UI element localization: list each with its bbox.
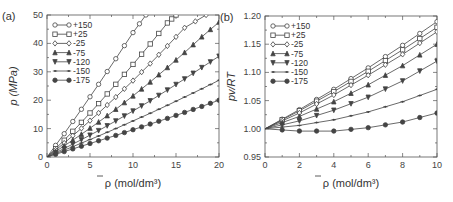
series-marker bbox=[280, 128, 284, 132]
series-marker bbox=[96, 120, 100, 125]
series-marker bbox=[400, 120, 404, 124]
x-tick-label: 6 bbox=[366, 160, 371, 170]
series-marker bbox=[131, 62, 135, 66]
x-tick-label: 10 bbox=[128, 160, 138, 170]
series-marker bbox=[79, 120, 83, 124]
series-marker bbox=[297, 119, 301, 124]
series-marker bbox=[332, 108, 336, 113]
series-marker bbox=[62, 132, 66, 136]
y-tick-label: 40 bbox=[33, 38, 43, 48]
series-marker bbox=[191, 107, 195, 111]
x-tick-label: 20 bbox=[214, 160, 224, 170]
legend-marker bbox=[285, 79, 289, 83]
legend-marker bbox=[53, 50, 57, 55]
series-marker bbox=[96, 139, 100, 143]
series-marker bbox=[366, 82, 370, 87]
legend-marker bbox=[285, 24, 289, 28]
y-tick-label: 1.15 bbox=[243, 39, 261, 49]
legend-entry: -175 bbox=[73, 75, 90, 85]
series-marker bbox=[139, 52, 143, 56]
series-marker bbox=[418, 52, 422, 57]
series-marker bbox=[157, 119, 161, 123]
series-marker bbox=[366, 95, 370, 100]
legend-marker bbox=[67, 32, 71, 36]
series-marker bbox=[79, 132, 83, 137]
series-marker bbox=[204, 12, 208, 17]
series-marker bbox=[148, 42, 152, 46]
series-marker bbox=[139, 86, 143, 91]
series-marker bbox=[400, 79, 404, 84]
series-marker bbox=[122, 100, 126, 105]
panel-b-chart: (b)02468100.951.001.051.101.151.20ρ (mol… bbox=[220, 11, 442, 189]
series-marker bbox=[170, 17, 174, 21]
series-marker bbox=[79, 144, 83, 148]
series-marker bbox=[174, 13, 178, 17]
series-marker bbox=[114, 82, 118, 86]
legend-marker bbox=[67, 78, 71, 82]
series-marker bbox=[349, 102, 353, 107]
x-tick-label: 4 bbox=[331, 160, 336, 170]
y-tick-label: 30 bbox=[33, 67, 43, 77]
series-marker bbox=[418, 115, 422, 119]
series-marker bbox=[193, 19, 197, 24]
y-tick-label: 1.20 bbox=[243, 11, 261, 21]
series-marker bbox=[105, 136, 109, 140]
legend-marker bbox=[271, 24, 275, 28]
series-marker bbox=[137, 22, 141, 26]
legend-marker bbox=[67, 41, 71, 46]
y-tick-label: 1.05 bbox=[243, 96, 261, 106]
series-marker bbox=[174, 82, 178, 87]
series-marker bbox=[165, 116, 169, 120]
series-marker bbox=[62, 149, 66, 153]
series-marker bbox=[191, 71, 195, 76]
y-tick-label: 0 bbox=[38, 152, 43, 162]
series-marker bbox=[79, 137, 83, 142]
series-marker bbox=[349, 127, 353, 131]
series-marker bbox=[349, 91, 353, 96]
series-marker bbox=[314, 129, 318, 133]
legend-marker bbox=[53, 23, 57, 27]
series-marker bbox=[217, 54, 221, 59]
series-marker bbox=[435, 42, 439, 47]
series-marker bbox=[200, 104, 204, 108]
legend-marker bbox=[53, 60, 57, 65]
series-marker bbox=[79, 107, 83, 111]
series-marker bbox=[96, 82, 100, 86]
legend-marker bbox=[285, 42, 289, 47]
series-marker bbox=[122, 72, 126, 76]
x-tick-label: 15 bbox=[171, 160, 181, 170]
panel-label: (a) bbox=[2, 10, 15, 22]
series-marker bbox=[182, 110, 186, 114]
series-marker bbox=[182, 77, 186, 82]
series-marker bbox=[96, 101, 100, 105]
series-marker bbox=[139, 104, 143, 109]
series-marker bbox=[71, 119, 75, 123]
x-axis-label: ρ (mol/dm³) bbox=[323, 177, 379, 189]
series-marker bbox=[148, 99, 152, 104]
series-marker bbox=[200, 65, 204, 70]
series-marker bbox=[217, 98, 221, 102]
series-marker bbox=[139, 125, 143, 129]
series-line-+25 bbox=[47, 15, 176, 157]
series-marker bbox=[314, 107, 318, 112]
y-tick-label: 1.10 bbox=[243, 67, 261, 77]
x-tick-label: 10 bbox=[432, 160, 442, 170]
legend-marker bbox=[271, 51, 275, 56]
legend-marker bbox=[285, 51, 289, 56]
legend-marker bbox=[271, 42, 275, 47]
series-marker bbox=[105, 92, 109, 96]
series-marker bbox=[114, 107, 118, 112]
x-tick-label: 0 bbox=[262, 160, 267, 170]
y-tick-label: 50 bbox=[33, 10, 43, 20]
series-marker bbox=[208, 101, 212, 105]
series-marker bbox=[131, 128, 135, 132]
y-axis-label: pv/RT bbox=[225, 71, 237, 102]
series-marker bbox=[435, 19, 439, 23]
legend-marker bbox=[271, 79, 275, 83]
figure: (a)0510152001020304050ρ (mol/dm³)p (MPa)… bbox=[0, 0, 453, 202]
legend-marker bbox=[53, 41, 57, 46]
series-marker bbox=[105, 124, 109, 129]
legend-marker bbox=[285, 61, 289, 66]
series-marker bbox=[208, 60, 212, 65]
series-marker bbox=[332, 99, 336, 104]
